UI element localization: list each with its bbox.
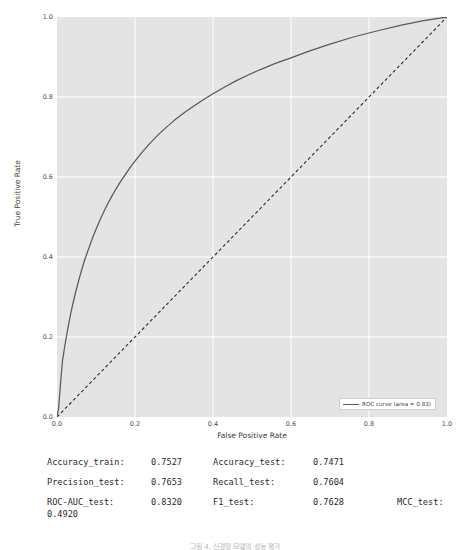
legend-label: ROC curve (area = 0.83) [362, 401, 431, 407]
f1-test-label: F1_test: [213, 492, 313, 512]
y-tick-label: 1.0 [19, 13, 53, 21]
metrics-row: ROC-AUC_test:0.8320F1_test:0.7628MCC_tes… [47, 492, 444, 512]
legend-line-swatch [343, 404, 359, 405]
mcc-test-label: MCC_test: [397, 497, 444, 507]
mcc-test-value-row: 0.4920 [47, 504, 78, 524]
x-tick-label: 0.8 [354, 420, 384, 428]
roc-plot-svg [57, 17, 447, 417]
x-tick-label: 0.2 [120, 420, 150, 428]
precision-test-value: 0.7653 [151, 472, 213, 492]
legend: ROC curve (area = 0.83) [339, 398, 436, 410]
y-tick-label: 0.6 [19, 173, 53, 181]
roc-figure: 1.0 0.8 0.6 0.4 0.2 0.0 0.0 0.2 0.4 0.6 … [0, 0, 470, 450]
recall-test-value: 0.7604 [313, 472, 397, 492]
y-tick-label: 0.8 [19, 93, 53, 101]
x-axis-label: False Positive Rate [57, 431, 447, 440]
x-tick-label: 1.0 [432, 420, 462, 428]
mcc-test-value: 0.4920 [47, 509, 78, 519]
roc-evaluation-page: 1.0 0.8 0.6 0.4 0.2 0.0 0.0 0.2 0.4 0.6 … [0, 0, 470, 550]
precision-test-label: Precision_test: [47, 472, 151, 492]
y-axis-label: True Positive Rate [13, 114, 22, 274]
accuracy-test-label: Accuracy_test: [213, 452, 313, 472]
metrics-block: Accuracy_train:0.7527Accuracy_test:0.747… [0, 452, 470, 550]
accuracy-train-value: 0.7527 [151, 452, 213, 472]
recall-test-label: Recall_test: [213, 472, 313, 492]
f1-test-value: 0.7628 [313, 492, 397, 512]
x-tick-label: 0.0 [42, 420, 72, 428]
accuracy-test-value: 0.7471 [313, 452, 397, 472]
figure-caption: 그림 4. 신경망 모델의 성능 평가 [0, 541, 470, 550]
x-tick-label: 0.6 [276, 420, 306, 428]
y-tick-label: 0.2 [19, 333, 53, 341]
metrics-row: Precision_test:0.7653Recall_test:0.7604 [47, 472, 397, 492]
roc-auc-test-value: 0.8320 [151, 492, 213, 512]
chance-diagonal [57, 17, 447, 417]
y-tick-label: 0.4 [19, 253, 53, 261]
metrics-row: Accuracy_train:0.7527Accuracy_test:0.747… [47, 452, 397, 472]
plot-area [57, 17, 447, 417]
x-tick-label: 0.4 [198, 420, 228, 428]
accuracy-train-label: Accuracy_train: [47, 452, 151, 472]
